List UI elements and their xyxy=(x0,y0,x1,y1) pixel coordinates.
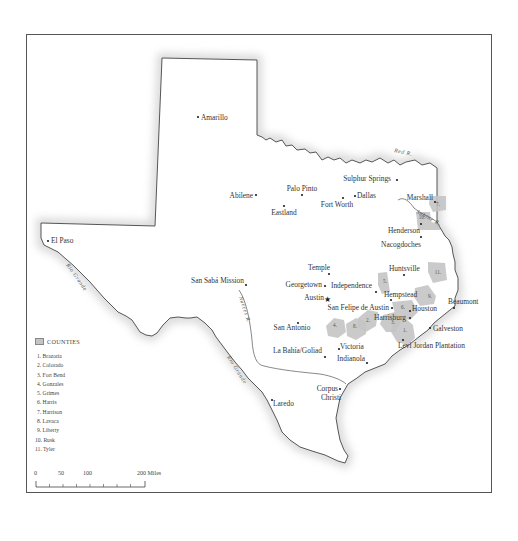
city-label: Austin xyxy=(304,293,324,302)
city-laredo: Laredo xyxy=(271,399,294,408)
city-label: San Sabá Mission xyxy=(191,276,244,285)
city-christi: Christi xyxy=(321,393,341,402)
city-dot-icon xyxy=(339,388,341,390)
city-dot-icon xyxy=(434,201,436,203)
city-abilene: Abilene xyxy=(230,191,258,200)
city-label: Beaumont xyxy=(448,297,479,306)
scale-bar: 0 50 100 200 Miles xyxy=(34,470,174,490)
city-label: Abilene xyxy=(230,191,254,200)
city-label: Corpus xyxy=(317,384,338,393)
city-san-felipe-de-austin: San Felipe de Austin xyxy=(328,303,393,312)
city-label: Amarillo xyxy=(201,113,228,122)
city-galveston: Galveston xyxy=(429,324,463,333)
river-label-red-r: Red R. xyxy=(393,147,413,157)
legend-item: 2. Colorado xyxy=(35,361,80,370)
county-number: 6. xyxy=(401,304,405,310)
legend-item: 1. Brazoria xyxy=(35,352,80,361)
city-dot-icon xyxy=(197,116,199,118)
county-number: 9. xyxy=(428,293,432,299)
county-number: 10. xyxy=(419,214,425,220)
city-label: El Paso xyxy=(51,236,74,245)
city-dot-icon xyxy=(390,299,392,301)
city-label: Temple xyxy=(308,263,331,272)
city-label: Houston xyxy=(412,304,437,313)
city-label: Galveston xyxy=(433,324,463,333)
city-dot-icon xyxy=(391,307,393,309)
city-el-paso: El Paso xyxy=(47,236,74,245)
city-label: Levi Jordan Plantation xyxy=(398,341,465,350)
city-dot-icon xyxy=(409,317,411,319)
city-label: Marshall xyxy=(407,193,433,202)
texas-map: Red R.Sabine R.Nueces R.Rio GrandeRio Gr… xyxy=(0,0,518,541)
city-houston: Houston xyxy=(409,304,437,313)
county-number: 7. xyxy=(436,201,440,207)
city-sulphur-springs: Sulphur Springs xyxy=(343,174,398,183)
city-dot-icon xyxy=(342,197,344,199)
texas-outline xyxy=(41,58,458,463)
city-dot-icon xyxy=(409,310,411,312)
city-dot-icon xyxy=(324,285,326,287)
city-dot-icon xyxy=(429,327,431,329)
city-label: La Bahía/Goliad xyxy=(273,346,322,355)
county-number: 8. xyxy=(353,323,357,329)
city-label: San Felipe de Austin xyxy=(328,303,390,312)
city-label: Indianola xyxy=(337,354,366,363)
legend-item: 4. Gonzales xyxy=(35,380,80,389)
city-dot-icon xyxy=(328,273,330,275)
county-number: 5. xyxy=(383,278,387,284)
city-dot-icon xyxy=(420,236,422,238)
city-label: Christi xyxy=(321,393,341,402)
city-label: Hempstead xyxy=(384,290,418,299)
city-dallas: Dallas xyxy=(354,191,376,200)
city-label: Palo Pinto xyxy=(287,184,318,193)
city-san-antonio: San Antonio xyxy=(274,322,311,332)
city-label: Fort Worth xyxy=(321,200,354,209)
city-dot-icon xyxy=(354,195,356,197)
county-number: 11. xyxy=(435,269,441,275)
city-georgetown: Georgetown xyxy=(286,280,327,289)
city-label: Harrisburg xyxy=(374,313,406,322)
city-label: San Antonio xyxy=(274,323,311,332)
city-label: Huntsville xyxy=(389,264,421,273)
city-victoria: Victoria xyxy=(338,342,365,351)
legend-item: 6. Harris xyxy=(35,398,80,407)
city-label: Eastland xyxy=(271,208,297,217)
legend-item: 3. Fort Bend xyxy=(35,371,80,380)
city-label: Sulphur Springs xyxy=(343,174,391,183)
legend-item: 10. Rusk xyxy=(35,436,80,445)
city-dot-icon xyxy=(396,179,398,181)
city-dot-icon xyxy=(453,307,455,309)
legend-item: 5. Grimes xyxy=(35,389,80,398)
legend-item: 11. Tyler xyxy=(35,445,80,454)
legend-item: 8. Lavaca xyxy=(35,417,80,426)
county-number: 1. xyxy=(403,327,407,333)
city-marshall: Marshall xyxy=(407,193,436,203)
city-corpus: Corpus xyxy=(317,384,341,393)
texas-state-shape xyxy=(41,58,458,463)
city-dot-icon xyxy=(255,194,257,196)
city-indianola: Indianola xyxy=(337,354,368,364)
city-dot-icon xyxy=(47,240,49,242)
city-dot-icon xyxy=(375,291,377,293)
city-dot-icon xyxy=(283,205,285,207)
map-legend: COUNTIES 1. Brazoria 2. Colorado 3. Fort… xyxy=(35,338,80,454)
legend-list: 1. Brazoria 2. Colorado 3. Fort Bend 4. … xyxy=(35,352,80,454)
county-number: 2. xyxy=(366,317,370,323)
city-label: Georgetown xyxy=(286,280,323,289)
city-dot-icon xyxy=(301,194,303,196)
city-label: Victoria xyxy=(340,342,364,351)
legend-title-row: COUNTIES xyxy=(35,338,80,345)
city-san-sab-mission: San Sabá Mission xyxy=(191,276,247,286)
city-label: Independence xyxy=(331,281,373,290)
county-swatch-icon xyxy=(35,338,44,345)
city-dot-icon xyxy=(420,223,422,225)
city-dot-icon xyxy=(403,274,405,276)
city-levi-jordan-plantation: Levi Jordan Plantation xyxy=(398,339,465,350)
legend-item: 9. Liberty xyxy=(35,426,80,435)
city-label: Henderson xyxy=(388,226,420,235)
city-label: Dallas xyxy=(357,191,376,200)
city-amarillo: Amarillo xyxy=(197,113,228,122)
city-label: Nacogdoches xyxy=(381,240,421,249)
legend-item: 7. Harrison xyxy=(35,408,80,417)
county-number: 4. xyxy=(333,322,337,328)
